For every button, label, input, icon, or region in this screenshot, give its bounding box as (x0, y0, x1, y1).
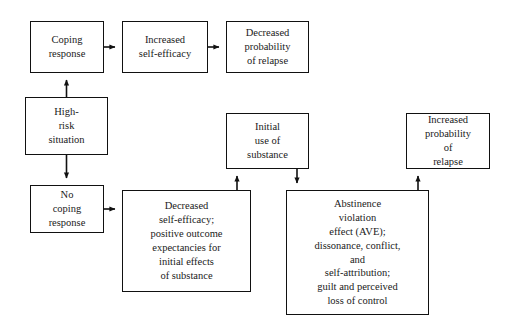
node-no-coping-response: No coping response (30, 185, 104, 233)
node-abstinence-violation-effect-label: Abstinence violation effect (AVE); disso… (290, 197, 425, 308)
node-no-coping-response-label: No coping response (34, 188, 100, 230)
node-coping-response: Coping response (30, 21, 104, 73)
node-high-risk-situation: High- risk situation (25, 97, 108, 155)
flowchart-canvas: Coping response Increased self-efficacy … (0, 0, 514, 322)
node-increased-self-efficacy: Increased self-efficacy (122, 21, 208, 73)
node-increased-probability-of-relapse-label: Increased probability of relapse (410, 113, 486, 168)
node-decreased-self-efficacy: Decreased self-efficacy; positive outcom… (122, 190, 251, 292)
node-decreased-self-efficacy-label: Decreased self-efficacy; positive outcom… (126, 199, 247, 282)
node-abstinence-violation-effect: Abstinence violation effect (AVE); disso… (286, 190, 429, 315)
node-increased-self-efficacy-label: Increased self-efficacy (126, 33, 204, 61)
node-initial-use-of-substance-label: Initial use of substance (230, 120, 305, 162)
node-coping-response-label: Coping response (34, 33, 100, 61)
node-decreased-probability-of-relapse-label: Decreased probability of relapse (230, 26, 305, 68)
node-decreased-probability-of-relapse: Decreased probability of relapse (226, 21, 309, 73)
node-initial-use-of-substance: Initial use of substance (226, 113, 309, 169)
node-increased-probability-of-relapse: Increased probability of relapse (406, 113, 490, 169)
node-high-risk-situation-label: High- risk situation (29, 105, 104, 147)
